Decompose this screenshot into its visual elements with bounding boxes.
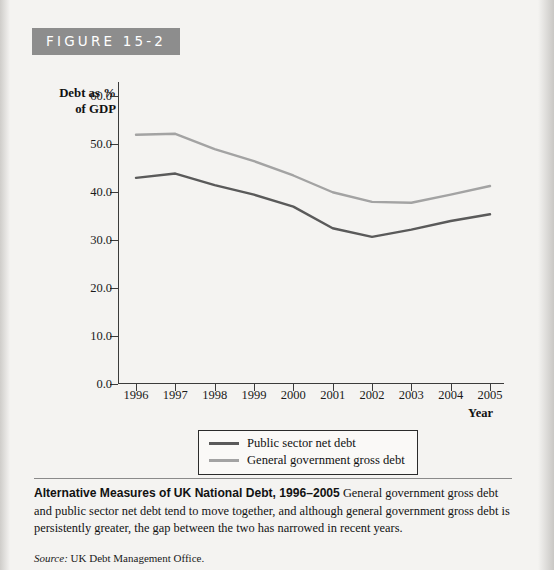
legend-item[interactable]: Public sector net debt <box>209 435 405 452</box>
source-text: UK Debt Management Office. <box>68 552 204 564</box>
x-axis-title: Year <box>468 406 493 421</box>
series-line <box>136 134 490 203</box>
legend-item[interactable]: General government gross debt <box>209 452 405 469</box>
figure-caption: Alternative Measures of UK National Debt… <box>34 485 512 538</box>
plot-area: 0.010.020.030.040.050.060.0 199619971998… <box>118 82 504 384</box>
legend-label: Public sector net debt <box>247 436 356 451</box>
chart-lines <box>118 82 504 384</box>
caption-divider <box>34 478 512 479</box>
legend-swatch-icon <box>209 442 239 445</box>
y-tick-label: 30.0 <box>52 233 112 248</box>
figure-inner: FIGURE 15-2 Debt as % of GDP 0.010.020.0… <box>22 14 522 556</box>
legend-label: General government gross debt <box>247 453 405 468</box>
legend-swatch-icon <box>209 459 239 462</box>
y-tick-label: 60.0 <box>52 89 112 104</box>
figure-source: Source: UK Debt Management Office. <box>34 552 512 564</box>
y-tick-label: 20.0 <box>52 281 112 296</box>
x-tick-label: 2005 <box>462 388 518 403</box>
y-tick-label: 40.0 <box>52 185 112 200</box>
figure-number-tag: FIGURE 15-2 <box>32 28 180 55</box>
chart-legend: Public sector net debtGeneral government… <box>198 430 418 475</box>
source-label: Source: <box>34 552 68 564</box>
figure-page: FIGURE 15-2 Debt as % of GDP 0.010.020.0… <box>0 0 554 570</box>
y-tick-label: 50.0 <box>52 137 112 152</box>
y-axis-title-line2: of GDP <box>36 102 116 118</box>
y-tick-label: 0.0 <box>52 377 112 392</box>
caption-title: Alternative Measures of UK National Debt… <box>34 486 340 500</box>
y-tick-label: 10.0 <box>52 329 112 344</box>
